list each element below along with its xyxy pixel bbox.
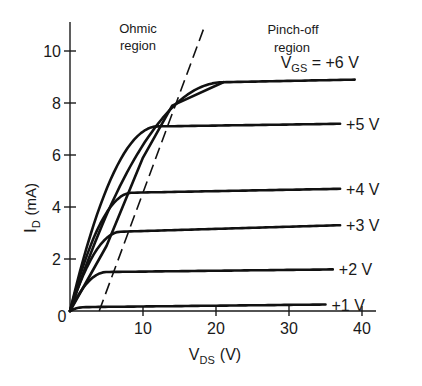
pinch-off-region-label-line1: Pinch-off <box>267 22 318 37</box>
x-tick-label: 20 <box>207 320 225 337</box>
y-axis-title-sub: D <box>30 220 42 228</box>
y-tick-label: 8 <box>52 95 61 112</box>
series-label: VGS = +6 V <box>281 54 360 74</box>
y-axis-title-unit: (mA) <box>22 183 39 216</box>
x-axis-title-main: V <box>189 346 200 363</box>
x-axis-title-sub: DS <box>200 354 215 366</box>
fet-characteristic-chart: 10203040246810 0 ID(mA) VDS(V) Ohmic reg… <box>0 0 422 386</box>
x-tick-label: 40 <box>353 320 371 337</box>
series-labels: VGS = +6 V+5 V+4 V+3 V+2 V+1 V <box>281 54 380 314</box>
y-tick-label: 10 <box>43 43 61 60</box>
series-label: +2 V <box>339 261 373 278</box>
x-tick-label: 30 <box>280 320 298 337</box>
svg-text:ID(mA): ID(mA) <box>21 183 42 233</box>
series-label: +1 V <box>332 297 366 314</box>
series-label: +3 V <box>346 217 380 234</box>
y-tick-label: 2 <box>52 251 61 268</box>
series-curve <box>70 124 340 311</box>
y-axis-title: ID(mA) <box>21 183 42 233</box>
x-axis-title: VDS(V) <box>189 346 241 366</box>
series-curve <box>70 305 326 312</box>
series-curve <box>70 189 340 311</box>
series-label-value: = +6 V <box>307 54 359 71</box>
origin-label: 0 <box>58 308 67 325</box>
series-label: +4 V <box>346 181 380 198</box>
y-tick-label: 6 <box>52 147 61 164</box>
y-tick-label: 4 <box>52 199 61 216</box>
pinch-off-region-label-line2: region <box>274 40 310 55</box>
series-label: +5 V <box>346 116 380 133</box>
ohmic-region-label-line1: Ohmic <box>119 21 157 36</box>
ohmic-region-label-line2: region <box>120 38 156 53</box>
series-label-v: V <box>281 54 292 71</box>
x-tick-label: 10 <box>134 320 152 337</box>
series-label-sub: GS <box>291 62 307 74</box>
x-axis-title-unit: (V) <box>220 346 241 363</box>
svg-text:VDS(V): VDS(V) <box>189 346 241 366</box>
